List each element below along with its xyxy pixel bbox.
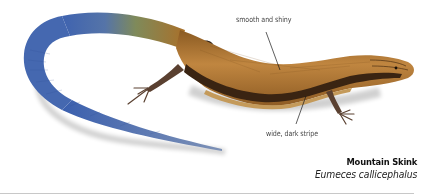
front-foot: [340, 110, 354, 124]
callout-wide-dark-stripe: wide, dark stripe: [266, 129, 318, 138]
hind-foot: [128, 88, 149, 104]
eye: [395, 67, 398, 70]
callout-smooth-and-shiny: smooth and shiny: [236, 15, 292, 24]
bottom-divider: [0, 193, 414, 194]
species-caption: Mountain Skink Eumeces callicephalus: [306, 156, 417, 181]
scientific-name: Eumeces callicephalus: [315, 168, 417, 181]
common-name: Mountain Skink: [319, 156, 417, 168]
hind-leg-front: [146, 64, 184, 92]
